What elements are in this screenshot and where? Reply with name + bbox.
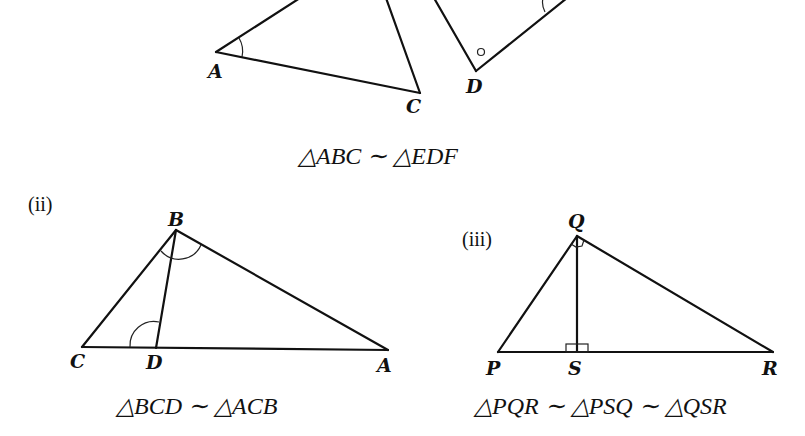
similar-triangles-diagram: A C D △ABC ∼ △EDF (ii) B C D A △BCD ∼ △A… [0, 0, 805, 436]
triangle-pqr: Q P S R [485, 210, 778, 379]
vertex-label-d: D [145, 351, 163, 373]
vertex-label-c: C [406, 95, 421, 117]
triangle-edf: D [434, 0, 567, 97]
vertex-label-b: B [167, 208, 184, 230]
vertex-label-p: P [485, 357, 501, 379]
caption-ii: △BCD ∼ △ACB [115, 393, 278, 419]
vertex-label-a: A [206, 60, 223, 82]
triangle-abc: A C [206, 0, 421, 117]
angle-b-arc [161, 245, 201, 259]
caption-i: △ABC ∼ △EDF [297, 143, 458, 169]
side-bc [82, 230, 176, 347]
angle-f-arc [543, 0, 545, 12]
caption-iii: △PQR ∼ △PSQ ∼ △QSR [473, 393, 727, 419]
side-ca [82, 347, 388, 350]
vertex-label-c: C [70, 350, 85, 372]
figure-tag-ii: (ii) [28, 193, 52, 216]
angle-a-arc [239, 38, 243, 57]
side-de [434, 0, 476, 71]
side-bc [386, 0, 420, 93]
side-df [476, 0, 567, 71]
triangle-acb: B C D A [70, 208, 392, 376]
angle-d-arc [130, 321, 159, 347]
side-ab [216, 0, 300, 52]
figure-tag-iii: (iii) [462, 228, 492, 251]
side-pq [498, 236, 577, 352]
angle-d-marker [478, 49, 485, 56]
side-ac [216, 52, 420, 93]
side-ba [176, 230, 388, 350]
vertex-label-q: Q [568, 210, 585, 232]
vertex-label-a: A [375, 354, 392, 376]
vertex-label-r: R [761, 357, 778, 379]
segment-bd [156, 230, 176, 348]
side-qr [577, 236, 773, 352]
vertex-label-d: D [465, 75, 483, 97]
vertex-label-s: S [568, 357, 582, 379]
